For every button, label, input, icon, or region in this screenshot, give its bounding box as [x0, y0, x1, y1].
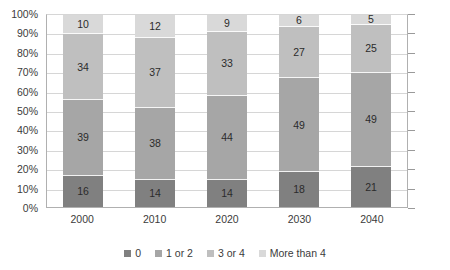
bar-segment: 49 [351, 73, 391, 167]
axis-tick-mark [408, 33, 415, 34]
bar-segment: 18 [279, 172, 319, 207]
bar-segment-label: 18 [293, 184, 305, 195]
x-axis: 20002010202020302040 [46, 214, 408, 225]
bar-segment-label: 9 [224, 18, 230, 29]
bar-segment-label: 37 [149, 67, 161, 78]
bar-segment: 10 [63, 15, 103, 34]
y-axis-tick-label: 100% [11, 9, 38, 20]
bar-group: 1034391612373814933441462749185254921 [47, 15, 407, 207]
bar-category-2010: 12373814 [119, 15, 191, 207]
bar-segment-label: 14 [149, 188, 161, 199]
stacked-bar: 12373814 [135, 15, 175, 207]
bar-category-2000: 10343916 [47, 15, 119, 207]
y-axis-tick-label: 40% [17, 125, 38, 136]
x-axis-tick-label: 2020 [191, 214, 263, 225]
legend-label: More than 4 [270, 248, 326, 259]
y-axis-tick-label: 50% [17, 106, 38, 117]
y-axis-tick-label: 0% [23, 203, 38, 214]
axis-tick-mark [408, 111, 415, 112]
legend-item[interactable]: 0 [124, 248, 141, 259]
axis-tick-mark [408, 169, 415, 170]
bar-segment-label: 6 [296, 15, 302, 26]
bar-category-2020: 9334414 [191, 15, 263, 207]
y-axis: 100%90%80%70%60%50%40%30%20%10%0% [0, 14, 42, 208]
legend-item[interactable]: More than 4 [259, 248, 326, 259]
y-axis-tick-label: 70% [17, 67, 38, 78]
legend-swatch-icon [259, 250, 266, 257]
bar-segment-label: 27 [293, 47, 305, 58]
x-axis-tick-label: 2040 [336, 214, 408, 225]
bar-segment-label: 39 [77, 132, 89, 143]
bar-segment: 37 [135, 38, 175, 108]
axis-tick-mark [408, 14, 415, 15]
bar-segment: 44 [207, 96, 247, 180]
legend-item[interactable]: 3 or 4 [207, 248, 245, 259]
bar-segment: 21 [351, 167, 391, 207]
axis-tick-mark [408, 130, 415, 131]
axis-tick-mark [408, 72, 415, 73]
axis-tick-mark [408, 92, 415, 93]
bar-segment-label: 5 [368, 14, 374, 25]
legend-label: 1 or 2 [166, 248, 193, 259]
bar-segment: 27 [279, 27, 319, 79]
x-axis-tick-label: 2010 [118, 214, 190, 225]
bar-segment: 14 [207, 180, 247, 207]
x-axis-tick-label: 2030 [263, 214, 335, 225]
bar-segment-label: 16 [77, 186, 89, 197]
legend-swatch-icon [124, 250, 131, 257]
bar-segment-label: 38 [149, 138, 161, 149]
bar-category-2030: 6274918 [263, 15, 335, 207]
bar-segment: 14 [135, 180, 175, 207]
y-axis-tick-label: 10% [17, 183, 38, 194]
y-axis-tick-label: 60% [17, 86, 38, 97]
bar-segment-label: 44 [221, 132, 233, 143]
axis-tick-mark [408, 53, 415, 54]
bar-segment: 9 [207, 15, 247, 32]
stacked-bar: 9334414 [207, 15, 247, 207]
bar-segment: 39 [63, 100, 103, 176]
bar-segment: 38 [135, 108, 175, 180]
bar-segment-label: 49 [293, 120, 305, 131]
bar-category-2040: 5254921 [335, 15, 407, 207]
y-axis-tick-label: 90% [17, 28, 38, 39]
bar-segment: 49 [279, 78, 319, 172]
legend-label: 3 or 4 [218, 248, 245, 259]
bar-segment-label: 14 [221, 188, 233, 199]
legend-swatch-icon [207, 250, 214, 257]
stacked-bar: 6274918 [279, 15, 319, 207]
y-axis-tick-label: 30% [17, 145, 38, 156]
axis-tick-mark [408, 208, 415, 209]
y-axis-tick-label: 80% [17, 48, 38, 59]
bar-segment-label: 49 [365, 114, 377, 125]
legend-swatch-icon [155, 250, 162, 257]
y-axis-tick-label: 20% [17, 164, 38, 175]
bar-segment-label: 34 [77, 62, 89, 73]
x-axis-tick-label: 2000 [46, 214, 118, 225]
bar-segment-label: 33 [221, 58, 233, 69]
stacked-bar-chart: 100%90%80%70%60%50%40%30%20%10%0% 103439… [0, 0, 450, 270]
stacked-bar: 10343916 [63, 15, 103, 207]
bar-segment: 34 [63, 34, 103, 100]
bar-segment-label: 25 [365, 43, 377, 54]
bar-segment-label: 21 [365, 182, 377, 193]
bar-segment: 5 [351, 15, 391, 25]
axis-tick-mark [408, 189, 415, 190]
bar-segment: 25 [351, 25, 391, 73]
stacked-bar: 5254921 [351, 15, 391, 207]
bar-segment: 16 [63, 176, 103, 207]
chart-legend: 01 or 23 or 4More than 4 [0, 248, 450, 259]
plot-area: 1034391612373814933441462749185254921 [46, 14, 408, 208]
legend-item[interactable]: 1 or 2 [155, 248, 193, 259]
bar-segment-label: 12 [149, 21, 161, 32]
bar-segment: 33 [207, 32, 247, 95]
bar-segment: 12 [135, 15, 175, 38]
legend-label: 0 [135, 248, 141, 259]
bar-segment: 6 [279, 15, 319, 27]
bar-segment-label: 10 [77, 19, 89, 30]
axis-tick-mark [408, 150, 415, 151]
